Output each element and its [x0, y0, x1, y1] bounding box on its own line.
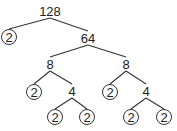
node-label: 4: [142, 84, 149, 99]
prime-factor-node: 2: [157, 110, 172, 125]
node-label: 2: [51, 110, 58, 125]
node-label: 2: [30, 85, 37, 100]
node-label: 128: [39, 4, 61, 19]
tree-edge: [126, 71, 146, 84]
prime-factor-node: 2: [103, 85, 118, 100]
prime-factor-node: 2: [2, 30, 17, 45]
node-label: 2: [83, 110, 90, 125]
node-label: 8: [122, 57, 129, 72]
factor-tree: 1282648824242222: [0, 0, 177, 131]
prime-factor-node: 2: [124, 110, 139, 125]
tree-edge: [110, 71, 126, 84]
tree-edge: [55, 98, 72, 109]
composite-node: 4: [68, 84, 75, 99]
tree-edge: [50, 71, 72, 84]
composite-node: 64: [81, 31, 95, 46]
node-label: 2: [106, 85, 113, 100]
tree-edge: [88, 45, 126, 57]
prime-factor-node: 2: [27, 85, 42, 100]
tree-edge: [50, 45, 88, 57]
prime-factor-node: 2: [48, 110, 63, 125]
node-label: 64: [81, 31, 95, 46]
composite-node: 128: [39, 4, 61, 19]
tree-edge: [131, 98, 146, 109]
node-label: 2: [5, 30, 12, 45]
tree-edge: [50, 18, 88, 31]
tree-edge: [146, 98, 164, 109]
tree-edge: [72, 98, 87, 109]
node-label: 2: [160, 110, 167, 125]
composite-node: 8: [122, 57, 129, 72]
node-label: 2: [127, 110, 134, 125]
composite-node: 8: [46, 57, 53, 72]
node-label: 8: [46, 57, 53, 72]
composite-node: 4: [142, 84, 149, 99]
tree-edge: [34, 71, 50, 84]
prime-factor-node: 2: [80, 110, 95, 125]
node-label: 4: [68, 84, 75, 99]
tree-edge: [9, 18, 50, 29]
